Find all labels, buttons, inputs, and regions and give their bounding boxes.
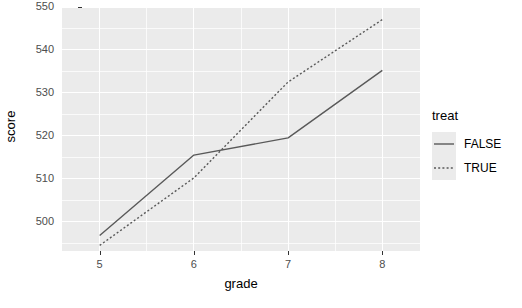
legend-key-true-icon (432, 156, 456, 180)
y-axis-ticks: 500510520530540550 (22, 0, 54, 252)
x-tick-mark (288, 251, 289, 255)
legend-key-false-icon (432, 132, 456, 156)
x-tick-label: 8 (367, 258, 397, 270)
legend: treat FALSETRUE (432, 108, 520, 180)
x-tick-mark (100, 251, 101, 255)
x-axis-title: grade (62, 276, 420, 291)
series-line-false (100, 70, 383, 235)
series-line-true (100, 20, 383, 246)
x-tick-mark (194, 251, 195, 255)
series-layer (62, 8, 420, 251)
legend-items: FALSETRUE (432, 132, 520, 180)
plot-panel (62, 8, 420, 251)
legend-item-false[interactable]: FALSE (432, 132, 520, 156)
legend-label: FALSE (464, 137, 501, 151)
chart-root: score 500510520530540550 5678 grade trea… (0, 0, 522, 308)
y-tick-label: 500 (22, 216, 54, 227)
x-tick-label: 5 (85, 258, 115, 270)
y-tick-label: 550 (22, 1, 54, 12)
x-tick-label: 7 (273, 258, 303, 270)
y-axis-title-text: score (4, 110, 19, 142)
x-tick-mark (382, 251, 383, 255)
y-tick-label: 540 (22, 44, 54, 55)
x-axis-ticks: 5678 (0, 251, 522, 275)
y-tick-label: 530 (22, 87, 54, 98)
legend-label: TRUE (464, 161, 497, 175)
y-tick-label: 510 (22, 173, 54, 184)
legend-title: treat (432, 108, 520, 123)
y-axis-title: score (0, 0, 22, 252)
y-tick-label: 520 (22, 130, 54, 141)
legend-item-true[interactable]: TRUE (432, 156, 520, 180)
x-tick-label: 6 (179, 258, 209, 270)
